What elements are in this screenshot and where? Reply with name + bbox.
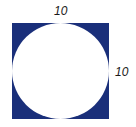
inscribed-circle [12,23,109,119]
top-side-label: 10 [54,5,67,17]
square-shape [12,23,109,119]
right-side-label: 10 [115,66,128,78]
